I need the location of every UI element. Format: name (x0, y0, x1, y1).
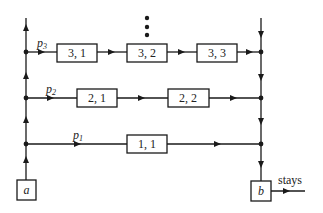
ellipsis-dots (145, 16, 149, 37)
box-2-2: 2, 2 (179, 91, 197, 105)
box-2-1: 2, 1 (88, 91, 106, 105)
flow-diagram: p3 3, 1 3, 2 3, 3 p2 2, 1 2, 2 p1 1, 1 (0, 0, 323, 213)
path-label-p3: p3 (36, 36, 47, 51)
box-3-3: 3, 3 (208, 46, 226, 60)
box-1-1: 1, 1 (138, 137, 156, 151)
path-p2 (26, 89, 261, 107)
box-3-2: 3, 2 (138, 46, 156, 60)
end-node-label: b (258, 184, 264, 198)
path-label-p1: p1 (72, 128, 83, 143)
exit-label: stays (278, 173, 302, 187)
box-3-1: 3, 1 (68, 46, 86, 60)
start-node-label: a (24, 183, 30, 197)
path-label-p2: p2 (45, 82, 56, 97)
exit-arrow (271, 188, 305, 194)
